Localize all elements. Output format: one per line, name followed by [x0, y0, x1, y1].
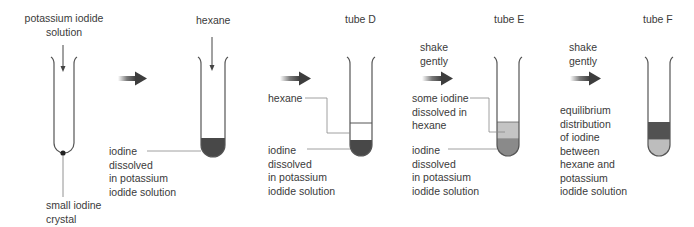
label-iodine-dissolved-e: iodine dissolved in potassium iodide sol… [412, 144, 479, 198]
iodine-crystal [60, 150, 65, 155]
label-hexane-d: hexane [268, 92, 302, 106]
process-arrow-2 [280, 72, 311, 86]
label-shake-gently-f: shake gently [569, 41, 597, 68]
process-arrow-4 [570, 72, 601, 86]
label-small-iodine-crystal: small iodine crystal [46, 199, 101, 226]
title-tube-f: tube F [643, 13, 673, 27]
pour-arrow-hexane [210, 37, 215, 71]
label-shake-gently-e: shake gently [420, 41, 448, 68]
test-tube-1 [51, 57, 77, 153]
process-arrow-3 [422, 72, 453, 86]
test-tube-f [643, 57, 675, 165]
title-tube-d: tube D [345, 13, 376, 27]
process-arrow-1 [118, 72, 147, 86]
label-hexane-added: hexane [196, 14, 230, 28]
label-some-iodine-in-hexane: some iodine dissolved in hexane [412, 92, 469, 133]
label-potassium-iodide-solution: potassium iodide solution [14, 12, 114, 39]
leader-line-hexane-d [305, 98, 350, 133]
pour-arrow-potassium-iodide [61, 45, 66, 72]
label-iodine-dissolved-2: iodine dissolved in potassium iodide sol… [109, 145, 176, 199]
test-tube-2 [195, 57, 235, 163]
label-equilibrium-distribution: equilibrium distribution of iodine betwe… [560, 104, 627, 199]
title-tube-e: tube E [494, 13, 524, 27]
label-iodine-dissolved-d: iodine dissolved in potassium iodide sol… [268, 144, 335, 198]
